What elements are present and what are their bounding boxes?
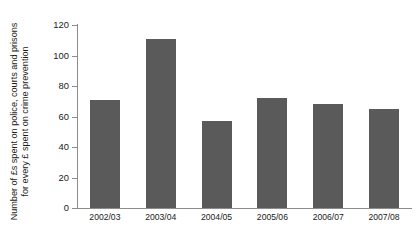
bar-chart-figure: Number of £s spent on police, courts and… [0,0,418,243]
x-axis-line [77,208,412,209]
y-axis-tick-mark [72,208,77,209]
plot-area [77,25,412,208]
x-axis-tick-label: 2006/07 [298,212,358,223]
y-axis-tick-label: 120 [0,19,69,30]
y-axis-tick-label: 60 [0,111,69,122]
y-axis-tick-label: 40 [0,141,69,152]
bar [313,104,343,208]
bar [90,100,120,208]
x-axis-tick-label: 2007/08 [354,212,414,223]
y-axis-tick-label: 100 [0,50,69,61]
x-axis-tick-label: 2004/05 [187,212,247,223]
x-axis-tick-label: 2002/03 [75,212,135,223]
y-axis-tick-label: 20 [0,172,69,183]
y-axis-tick-label: 80 [0,80,69,91]
x-axis-tick-label: 2005/06 [242,212,302,223]
bar [369,109,399,208]
bar [202,121,232,208]
bar [146,39,176,208]
x-axis-tick-label: 2003/04 [131,212,191,223]
bar [257,98,287,208]
y-axis-tick-label: 0 [0,202,69,213]
